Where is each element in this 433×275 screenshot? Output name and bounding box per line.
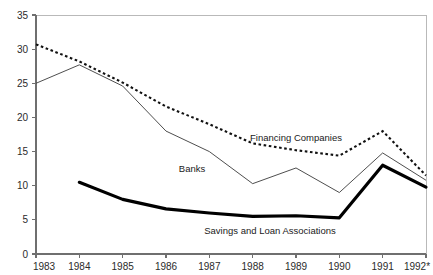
x-tick-label: 1984 (68, 261, 91, 272)
x-tick-label: 1989 (285, 261, 308, 272)
x-tick-label: 1986 (155, 261, 178, 272)
y-tick-label: 30 (17, 44, 29, 55)
series-group (36, 44, 426, 217)
y-tick-label: 25 (17, 78, 29, 89)
x-tick-label: 1985 (112, 261, 135, 272)
y-tick-group: 05101520253035 (17, 10, 36, 260)
x-tick-label: 1990 (328, 261, 351, 272)
y-tick-label: 5 (22, 214, 28, 225)
line-chart-plot: 05101520253035 1983198419851986198719881… (0, 0, 433, 275)
x-tick-group: 1983198419851986198719881989199019911992… (33, 254, 430, 272)
x-tick-label: 1987 (198, 261, 221, 272)
chart-container: 05101520253035 1983198419851986198719881… (0, 0, 433, 275)
y-tick-label: 15 (17, 146, 29, 157)
x-tick-label: 1988 (242, 261, 265, 272)
x-tick-label: 1983 (33, 261, 56, 272)
x-tick-label: 1991 (372, 261, 395, 272)
y-tick-label: 20 (17, 112, 29, 123)
series-line-savings-and-loan (79, 165, 426, 218)
y-tick-label: 0 (22, 249, 28, 260)
series-annotations: Financing CompaniesBanksSavings and Loan… (179, 132, 342, 236)
y-tick-label: 10 (17, 180, 29, 191)
x-tick-label: 1992* (404, 261, 430, 272)
series-annotation-label: Banks (179, 163, 206, 174)
series-line-banks (36, 65, 426, 193)
series-line-financing-companies (36, 44, 426, 175)
series-annotation-label: Savings and Loan Associations (204, 225, 336, 236)
y-tick-label: 35 (17, 10, 29, 21)
series-annotation-label: Financing Companies (250, 132, 342, 143)
